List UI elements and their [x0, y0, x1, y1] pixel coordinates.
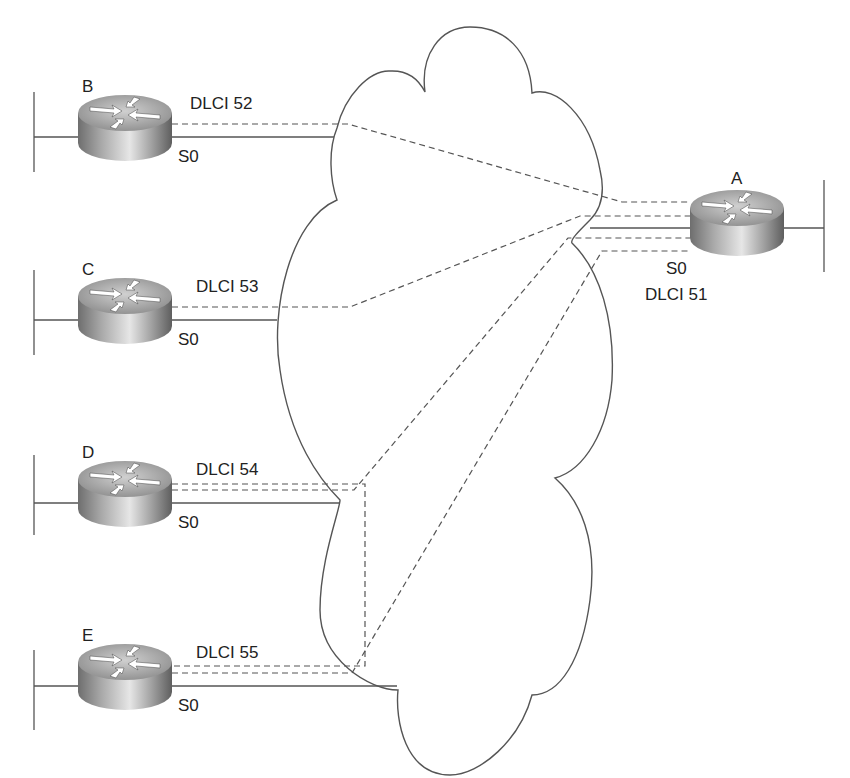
router-b-label: B: [82, 77, 93, 96]
router-e-dlci: DLCI 55: [196, 643, 258, 662]
router-c[interactable]: [78, 278, 172, 344]
router-d-interface: S0: [178, 513, 199, 532]
router-b-dlci: DLCI 52: [190, 94, 252, 113]
router-icon: [78, 95, 172, 161]
router-icon: [78, 461, 172, 527]
router-icon: [690, 190, 784, 256]
router-d-dlci: DLCI 54: [196, 460, 258, 479]
router-e-label: E: [82, 626, 93, 645]
router-b-interface: S0: [178, 147, 199, 166]
router-c-dlci: DLCI 53: [196, 277, 258, 296]
router-c-label: C: [82, 260, 94, 279]
router-a-dlci: DLCI 51: [645, 285, 707, 304]
router-d[interactable]: [78, 461, 172, 527]
frame-relay-diagram: B DLCI 52 S0 C DLCI 53 S0 D DLCI 54 S0 E…: [0, 0, 850, 778]
router-e-interface: S0: [178, 696, 199, 715]
router-icon: [78, 278, 172, 344]
router-c-interface: S0: [178, 330, 199, 349]
frame-relay-cloud: [277, 27, 612, 775]
router-d-label: D: [82, 443, 94, 462]
router-icon: [78, 644, 172, 710]
router-a-interface: S0: [666, 259, 687, 278]
router-b[interactable]: [78, 95, 172, 161]
router-e[interactable]: [78, 644, 172, 710]
router-a[interactable]: [690, 190, 784, 256]
router-a-label: A: [731, 169, 743, 188]
